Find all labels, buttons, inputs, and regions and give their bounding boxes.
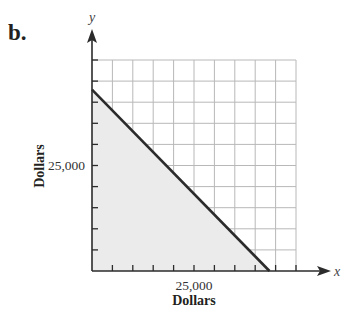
y-tick-label-25000: 25,000 [48,158,85,173]
x-axis-variable-label: x [333,264,341,279]
y-axis-title: Dollars [32,144,47,188]
panel-label: b. [8,20,27,45]
chart-canvas: b. y x 25,000 25,000 Dollars Dollars [0,0,346,313]
x-tick-label-25000: 25,000 [175,278,212,293]
x-axis-title: Dollars [172,293,216,308]
y-axis-variable-label: y [87,10,96,25]
chart-panel-b: b. y x 25,000 25,000 Dollars Dollars [0,0,346,313]
